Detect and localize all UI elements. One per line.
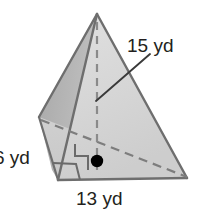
label-base-depth: 6 yd bbox=[0, 147, 30, 169]
pyramid-figure: 15 yd 6 yd 13 yd bbox=[0, 0, 207, 221]
label-base-width: 13 yd bbox=[76, 188, 122, 210]
label-slant-height: 15 yd bbox=[127, 35, 173, 57]
center-point-dot bbox=[91, 155, 103, 167]
